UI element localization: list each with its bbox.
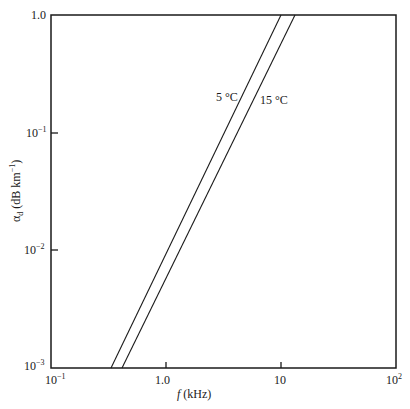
x-axis-ticks [166, 362, 281, 368]
x-tick-labels: 10−1 1.0 10 102 [45, 372, 402, 387]
y-axis-label: αd (dB km−1) [8, 160, 25, 222]
x-tick-100: 102 [386, 372, 402, 387]
y-tick-0.1: 10−1 [26, 125, 47, 140]
chart: 10−1 1.0 10 102 1.0 10−1 10−2 10−3 f (kH… [0, 0, 410, 409]
series-line-5c [111, 15, 281, 368]
y-tick-0.01: 10−2 [24, 242, 45, 257]
plot-frame [51, 15, 396, 368]
y-axis-ticks [51, 133, 58, 250]
y-tick-1.0: 1.0 [31, 8, 46, 22]
series-label-5c: 5 °C [216, 90, 238, 104]
series-label-15c: 15 °C [260, 93, 288, 107]
series-line-15c [122, 15, 295, 368]
y-tick-0.001: 10−3 [24, 358, 45, 373]
x-tick-1.0: 1.0 [155, 373, 170, 387]
y-tick-labels: 1.0 10−1 10−2 10−3 [24, 8, 47, 373]
x-tick-0.1: 10−1 [45, 372, 66, 387]
x-axis-label: f (kHz) [177, 387, 211, 401]
x-tick-10: 10 [274, 373, 286, 387]
